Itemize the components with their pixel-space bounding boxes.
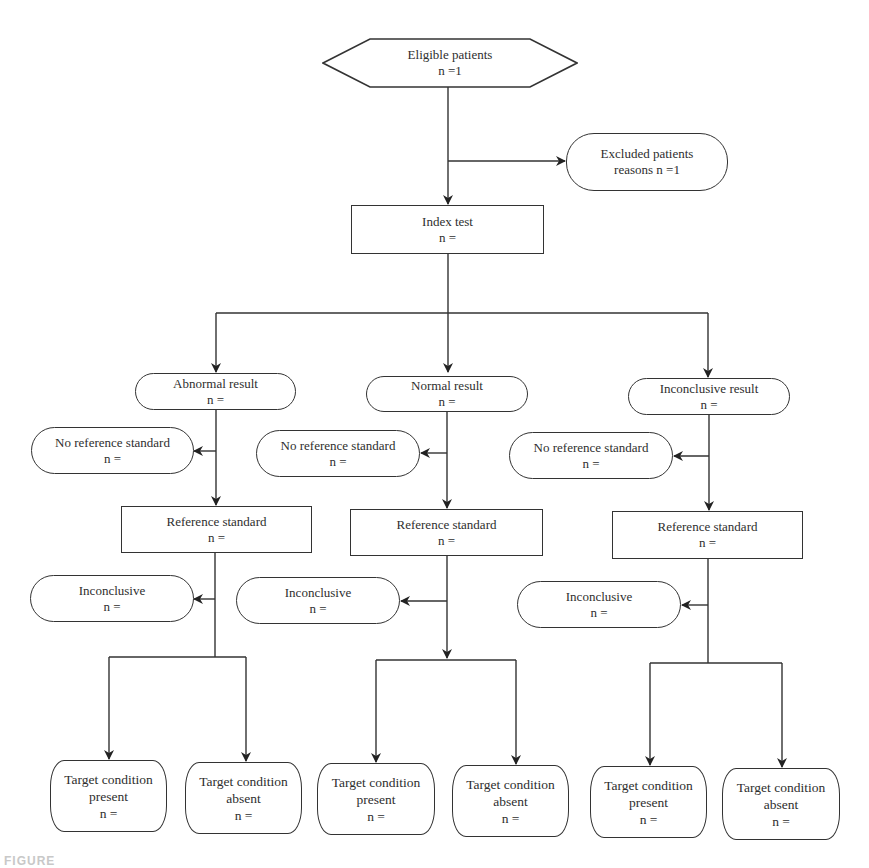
target-absent-line2: absent: [493, 793, 528, 810]
result-label: Normal result: [411, 378, 483, 394]
index-test-count: n =: [439, 230, 456, 246]
inconclusive-label: Inconclusive: [79, 583, 145, 599]
target-present-count: n =: [100, 805, 118, 822]
target-absent-node: Target condition absent n =: [185, 762, 302, 834]
reference-label: Reference standard: [167, 514, 267, 530]
target-absent-count: n =: [235, 807, 253, 824]
no-reference-count: n =: [329, 454, 346, 470]
target-absent-node: Target condition absent n =: [722, 768, 840, 840]
normal-result-node: Normal result n =: [366, 376, 528, 412]
target-absent-count: n =: [772, 813, 790, 830]
index-test-label: Index test: [422, 214, 473, 230]
no-reference-standard-node: No reference standard n =: [256, 430, 420, 477]
target-absent-line1: Target condition: [466, 776, 554, 793]
result-count: n =: [438, 394, 455, 410]
inconclusive-node: Inconclusive n =: [30, 575, 194, 622]
result-count: n =: [207, 392, 224, 408]
target-present-node: Target condition present n =: [590, 766, 707, 838]
target-present-count: n =: [640, 811, 658, 828]
inconclusive-count: n =: [590, 605, 607, 621]
no-reference-standard-node: No reference standard n =: [509, 432, 673, 479]
target-present-line2: present: [629, 794, 668, 811]
eligible-label: Eligible patients: [408, 47, 493, 63]
target-present-line1: Target condition: [604, 777, 692, 794]
inconclusive-result-node: Inconclusive result n =: [628, 378, 790, 415]
inconclusive-label: Inconclusive: [566, 589, 632, 605]
excluded-count: reasons n =1: [614, 162, 680, 178]
excluded-label: Excluded patients: [601, 146, 694, 162]
target-present-line1: Target condition: [64, 771, 152, 788]
no-reference-label: No reference standard: [55, 435, 170, 451]
inconclusive-label: Inconclusive: [285, 585, 351, 601]
reference-standard-node: Reference standard n =: [121, 506, 312, 553]
eligible-count: n =1: [438, 63, 462, 79]
reference-standard-node: Reference standard n =: [612, 511, 803, 559]
inconclusive-count: n =: [309, 601, 326, 617]
target-present-line2: present: [357, 791, 396, 808]
target-absent-count: n =: [502, 810, 520, 827]
target-present-node: Target condition present n =: [317, 763, 435, 835]
inconclusive-node: Inconclusive n =: [236, 577, 400, 624]
target-absent-line2: absent: [226, 790, 261, 807]
no-reference-count: n =: [104, 451, 121, 467]
reference-count: n =: [699, 535, 716, 551]
target-absent-line1: Target condition: [199, 773, 287, 790]
index-test-node: Index test n =: [351, 205, 544, 254]
no-reference-standard-node: No reference standard n =: [31, 427, 194, 474]
figure-caption: FIGURE: [4, 854, 55, 868]
target-present-line2: present: [89, 788, 128, 805]
no-reference-label: No reference standard: [534, 440, 649, 456]
target-present-node: Target condition present n =: [50, 760, 167, 832]
abnormal-result-node: Abnormal result n =: [135, 373, 296, 410]
target-absent-node: Target condition absent n =: [452, 765, 569, 837]
target-present-count: n =: [367, 808, 385, 825]
result-count: n =: [700, 397, 717, 413]
inconclusive-node: Inconclusive n =: [517, 581, 681, 628]
target-absent-line1: Target condition: [737, 779, 825, 796]
reference-count: n =: [208, 530, 225, 546]
result-label: Abnormal result: [173, 376, 258, 392]
excluded-patients-node: Excluded patients reasons n =1: [566, 133, 728, 191]
reference-count: n =: [438, 533, 455, 549]
reference-standard-node: Reference standard n =: [350, 509, 543, 556]
reference-label: Reference standard: [658, 519, 758, 535]
target-absent-line2: absent: [764, 796, 799, 813]
no-reference-label: No reference standard: [281, 438, 396, 454]
eligible-patients-node: Eligible patients n =1: [322, 38, 578, 88]
target-present-line1: Target condition: [332, 774, 420, 791]
reference-label: Reference standard: [397, 517, 497, 533]
inconclusive-count: n =: [103, 599, 120, 615]
result-label: Inconclusive result: [660, 381, 759, 397]
no-reference-count: n =: [582, 456, 599, 472]
